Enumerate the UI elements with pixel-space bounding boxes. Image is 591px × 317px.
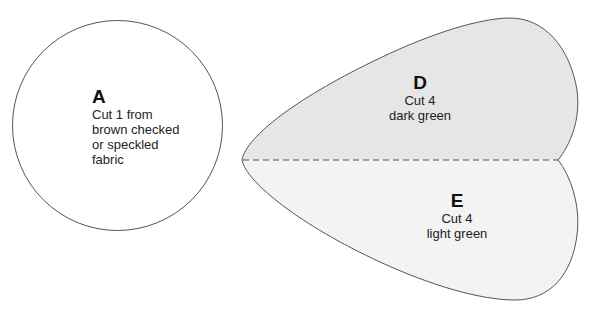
piece-e-letter: E <box>407 191 507 211</box>
piece-e-instruction-1: Cut 4 <box>407 211 507 226</box>
piece-a-instruction-3: or speckled <box>92 137 179 152</box>
pattern-diagram <box>0 0 591 317</box>
piece-e-label: E Cut 4 light green <box>407 191 507 241</box>
piece-d-instruction-1: Cut 4 <box>370 93 470 108</box>
piece-a-instruction-4: fabric <box>92 152 179 167</box>
piece-d-instruction-2: dark green <box>370 108 470 123</box>
piece-d-label: D Cut 4 dark green <box>370 73 470 123</box>
piece-e-instruction-2: light green <box>407 226 507 241</box>
piece-a-instruction-1: Cut 1 from <box>92 107 179 122</box>
piece-a-letter: A <box>92 87 179 107</box>
piece-a-instruction-2: brown checked <box>92 122 179 137</box>
piece-d-letter: D <box>370 73 470 93</box>
piece-a-label: A Cut 1 from brown checked or speckled f… <box>92 87 179 167</box>
